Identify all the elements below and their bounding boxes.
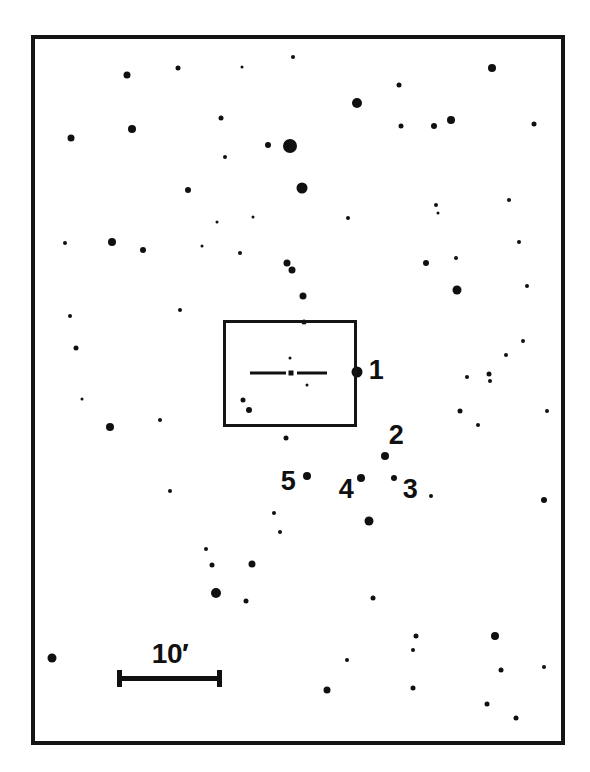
finder-chart: 12345 10′: [0, 0, 590, 772]
scale-bar-cap-left: [117, 670, 122, 687]
center-marker-dash-left: [250, 372, 286, 375]
star-label-2: 2: [389, 422, 404, 449]
star-label-5: 5: [281, 468, 296, 495]
scale-bar-line: [117, 676, 222, 681]
center-marker-dot: [289, 371, 294, 376]
scale-bar-cap-right: [217, 670, 222, 687]
star-label-3: 3: [403, 476, 418, 503]
star-label-4: 4: [339, 476, 354, 503]
center-marker-dash-right: [297, 372, 327, 375]
center-marker-offset-dot: [306, 384, 309, 387]
star-label-1: 1: [369, 357, 384, 384]
scale-bar-label: 10′: [152, 640, 188, 668]
